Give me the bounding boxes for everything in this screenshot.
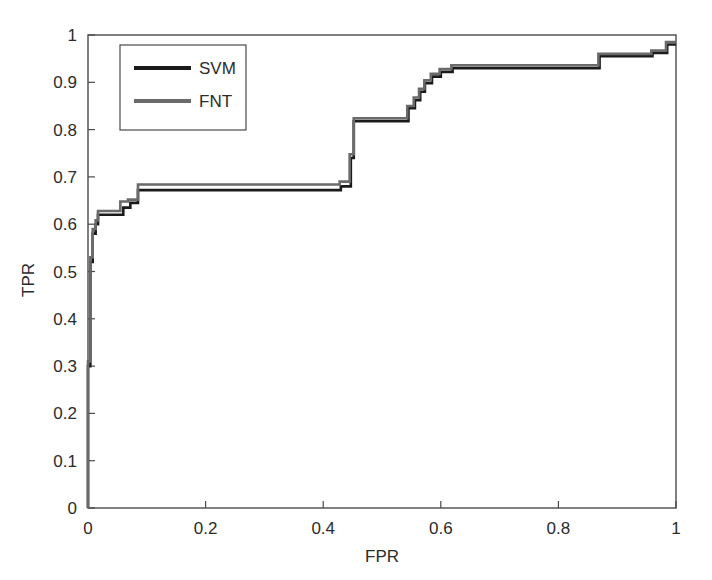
chart-legend: SVMFNT (120, 45, 246, 130)
y-tick-label: 0.3 (53, 357, 77, 376)
x-axis-title: FPR (365, 547, 399, 566)
y-tick-label: 0.7 (53, 168, 77, 187)
y-tick-label: 0.9 (53, 73, 77, 92)
x-tick-label: 0.8 (547, 519, 571, 538)
x-tick-label: 0.4 (311, 519, 335, 538)
y-tick-label: 0.6 (53, 215, 77, 234)
legend-box (120, 45, 246, 130)
x-tick-label: 0.2 (194, 519, 218, 538)
legend-label-fnt: FNT (199, 92, 232, 111)
y-tick-label: 0.2 (53, 404, 77, 423)
roc-chart-figure: 00.20.40.60.81 00.10.20.30.40.50.60.70.8… (0, 0, 712, 580)
x-tick-label: 0 (83, 519, 92, 538)
x-tick-label: 1 (671, 519, 680, 538)
y-tick-label: 1 (68, 26, 77, 45)
legend-label-svm: SVM (199, 59, 236, 78)
y-tick-label: 0.1 (53, 452, 77, 471)
roc-chart-svg: 00.20.40.60.81 00.10.20.30.40.50.60.70.8… (0, 0, 712, 580)
y-tick-label: 0 (68, 499, 77, 518)
y-axis-title: TPR (19, 263, 38, 297)
y-tick-label: 0.5 (53, 263, 77, 282)
chart-background (0, 0, 712, 580)
y-tick-label: 0.4 (53, 310, 77, 329)
y-tick-label: 0.8 (53, 121, 77, 140)
x-tick-label: 0.6 (429, 519, 453, 538)
